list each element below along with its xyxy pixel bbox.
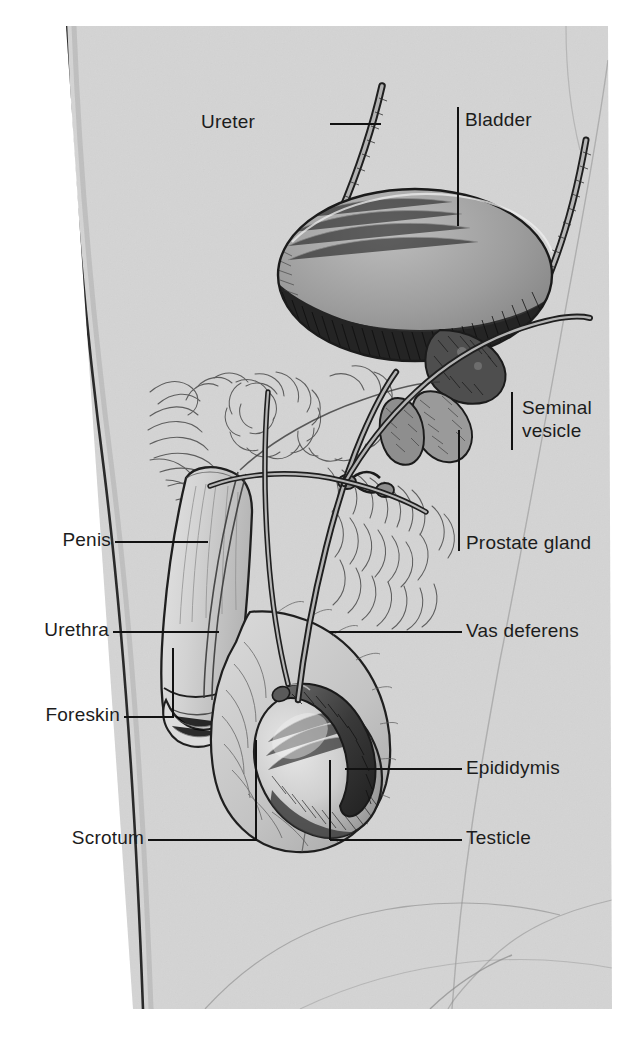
label-seminal-vesicle: Seminal vesicle bbox=[522, 396, 592, 442]
label-ureter: Ureter bbox=[0, 110, 255, 133]
labels-layer: Ureter Bladder Seminal vesicle Prostate … bbox=[0, 0, 631, 1055]
label-testicle: Testicle bbox=[466, 826, 531, 849]
anatomy-figure-page: Ureter Bladder Seminal vesicle Prostate … bbox=[0, 0, 631, 1055]
label-bladder: Bladder bbox=[465, 108, 532, 131]
label-epididymis: Epididymis bbox=[466, 756, 560, 779]
label-vas-deferens: Vas deferens bbox=[466, 619, 579, 642]
label-scrotum: Scrotum bbox=[0, 826, 144, 849]
label-urethra: Urethra bbox=[0, 618, 109, 641]
label-prostate-gland: Prostate gland bbox=[466, 531, 591, 554]
label-foreskin: Foreskin bbox=[0, 703, 120, 726]
label-penis: Penis bbox=[0, 528, 111, 551]
